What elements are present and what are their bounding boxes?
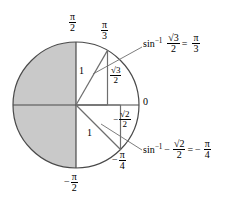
axis-label-top: π 2: [69, 12, 76, 33]
lower-annotation-argument: √2 2: [173, 139, 186, 160]
upper-triangle-hypotenuse-label: 1: [79, 66, 84, 76]
lower-triangle-hypotenuse-label: 1: [87, 128, 92, 138]
lower-annotation-equals: =: [187, 145, 193, 155]
upper-annotation-result: π 3: [192, 33, 199, 54]
lower-triangle-opposite-label: − √2 2: [113, 110, 131, 129]
lower-annotation-arg-sign: −: [164, 145, 171, 155]
upper-annotation: sin−1 √3 2 = π 3: [143, 33, 200, 54]
unit-circle-figure: π 2 π 3 0 − π 2 − π 4 1 √3 2 1: [0, 0, 230, 201]
upper-triangle-hypotenuse: [76, 50, 108, 105]
upper-annotation-equals: =: [182, 39, 188, 49]
lower-annotation-result: π 4: [204, 139, 211, 160]
axis-label-right: 0: [143, 97, 148, 107]
upper-annotation-function: sin−1: [143, 38, 162, 49]
axis-label-bottom: − π 2: [64, 172, 78, 193]
upper-annotation-argument: √3 2: [167, 33, 180, 54]
lower-annotation-result-sign: −: [195, 145, 202, 155]
upper-triangle-opposite-label: √3 2: [110, 66, 121, 85]
angle-label-lower: − π 4: [112, 150, 126, 171]
lower-annotation: sin−1 − √2 2 = − π 4: [143, 139, 211, 160]
angle-label-upper: π 3: [101, 20, 108, 41]
lower-annotation-function: sin−1: [143, 144, 162, 155]
